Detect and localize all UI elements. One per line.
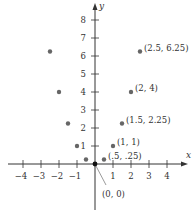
y-tick-label: 6 (81, 51, 86, 61)
point-label: (1, 1) (117, 137, 140, 147)
point-label: (0, 0) (102, 189, 125, 199)
point-label: (2.5, 6.25) (144, 43, 188, 53)
origin-leader-line (96, 166, 106, 185)
data-point (102, 157, 106, 161)
x-tick-label: −3 (33, 171, 46, 181)
y-axis-label: y (98, 1, 105, 11)
point-label: (1.5, 2.25) (126, 115, 170, 125)
data-point (93, 162, 98, 167)
x-tick-label: 1 (110, 171, 115, 181)
data-point (66, 121, 70, 125)
y-tick-label: 3 (81, 105, 86, 115)
data-point (75, 144, 79, 148)
point-label: (.5, .25) (108, 151, 142, 161)
data-point (120, 121, 124, 125)
y-tick-label: 7 (81, 33, 86, 43)
x-axis-arrow-icon (181, 162, 188, 167)
data-point (57, 90, 61, 94)
y-axis-arrow-icon (93, 3, 98, 10)
data-point (111, 144, 115, 148)
y-tick-label: 8 (81, 15, 86, 25)
data-point (48, 49, 52, 53)
x-tick-label: −4 (15, 171, 28, 181)
x-tick-label: 2 (128, 171, 133, 181)
point-label: (2, 4) (135, 83, 158, 93)
y-tick-label: 4 (81, 87, 86, 97)
x-tick-label: −2 (51, 171, 64, 181)
x-tick-label: 3 (146, 171, 151, 181)
y-tick-label: 2 (81, 123, 86, 133)
data-point (129, 90, 133, 94)
x-tick-label: −1 (69, 171, 82, 181)
data-point (138, 49, 142, 53)
data-point (84, 157, 88, 161)
x-axis-label: x (186, 150, 191, 160)
scatter-plot: xy −4−3−2−1123412345678 (0, 0)(.5, .25)(… (0, 0, 192, 212)
x-tick-label: 4 (164, 171, 169, 181)
y-tick-label: 5 (81, 69, 86, 79)
ticks: −4−3−2−1123412345678 (15, 15, 170, 181)
y-tick-label: 1 (81, 141, 86, 151)
